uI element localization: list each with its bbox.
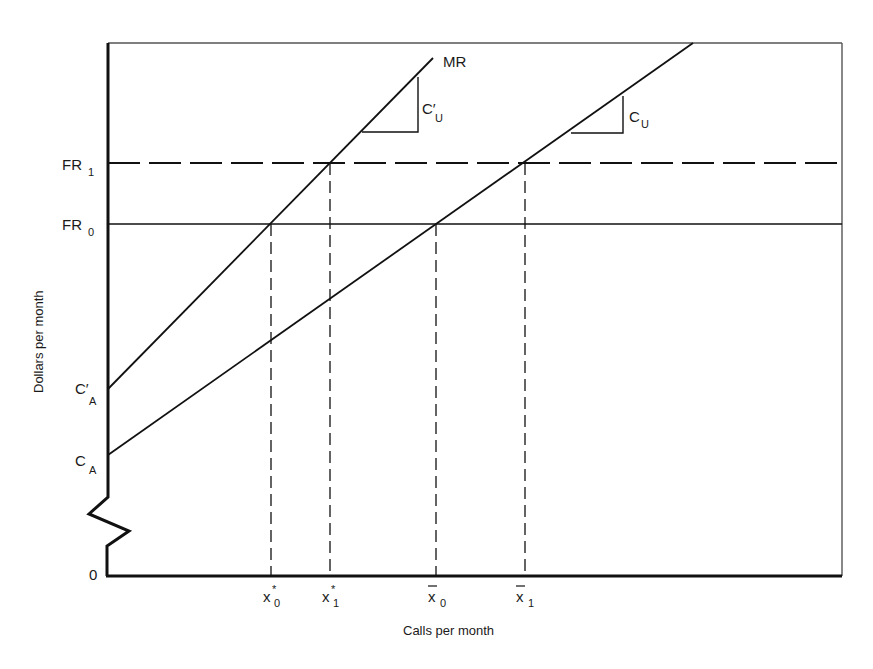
x0star-label: x * 0 [263,583,280,609]
x1bar-label-sub: 1 [528,597,534,609]
x1bar-label-main: x [516,588,524,605]
cu-label-main: C [629,108,640,125]
lower-cost-line [108,43,693,455]
cu-slope-triangle [571,96,623,133]
fr0-label: FR 0 [62,216,94,238]
fr0-label-sub: 0 [88,226,94,238]
cu-label-sub: U [641,118,649,130]
cpu-label: C′ U [422,100,443,124]
cpu-label-main: C′ [422,100,436,117]
x1star-label-main: x [322,588,330,605]
x1star-label: x * 1 [322,583,339,609]
x-axis-title: Calls per month [403,623,494,638]
ca-label-main: C [75,452,86,469]
fr0-label-main: FR [62,216,82,233]
x1star-label-sub: 1 [333,597,339,609]
x0star-label-sub: 0 [274,597,280,609]
x0bar-label: x 0 [428,586,446,609]
x0star-label-main: x [263,588,271,605]
x0bar-label-main: x [428,588,436,605]
cpu-label-sub: U [435,112,443,124]
mr-label: MR [443,53,466,70]
x0bar-label-sub: 0 [440,597,446,609]
cpa-label: C′ A [75,380,97,407]
y-axis [89,43,129,576]
mr-slope-triangle [362,77,418,132]
cu-label: C U [629,108,649,130]
economics-diagram: FR 1 FR 0 C′ A C A 0 MR C′ U C U x * 0 x… [0,0,873,669]
cpa-label-main: C′ [75,380,89,397]
x1bar-label: x 1 [516,586,534,609]
ca-label-sub: A [89,464,97,476]
y-axis-title: Dollars per month [31,290,46,393]
x0star-label-sup: * [272,583,277,595]
cpa-label-sub: A [89,395,97,407]
origin-label: 0 [89,566,97,583]
x1star-label-sup: * [331,583,336,595]
ca-label: C A [75,452,97,476]
fr1-label-main: FR [62,156,82,173]
fr1-label: FR 1 [62,156,94,178]
fr1-label-sub: 1 [88,166,94,178]
